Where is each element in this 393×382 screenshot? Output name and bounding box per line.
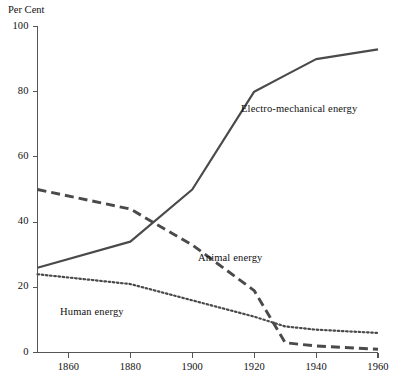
series-line-dotted xyxy=(38,274,379,333)
x-tick-label: 1920 xyxy=(230,361,278,372)
x-tick-label: 1880 xyxy=(106,361,154,372)
y-axis-ticks xyxy=(33,27,38,353)
y-tick-label: 80 xyxy=(0,85,29,96)
series-label: Electro-mechanical energy xyxy=(241,103,357,114)
series-group xyxy=(38,49,379,349)
x-tick-label: 1940 xyxy=(292,361,340,372)
x-tick-label: 1960 xyxy=(354,361,393,372)
y-tick-label: 100 xyxy=(0,20,29,31)
x-tick-label: 1900 xyxy=(168,361,216,372)
x-tick-label: 1860 xyxy=(44,361,92,372)
series-line-solid xyxy=(38,49,379,267)
y-tick-label: 0 xyxy=(0,346,29,357)
series-label: Human energy xyxy=(60,306,124,317)
y-tick-label: 60 xyxy=(0,150,29,161)
series-line-dashed xyxy=(38,190,379,350)
y-tick-label: 40 xyxy=(0,215,29,226)
y-tick-label: 20 xyxy=(0,280,29,291)
series-label: Animal energy xyxy=(198,252,262,263)
x-axis-ticks xyxy=(68,353,378,358)
